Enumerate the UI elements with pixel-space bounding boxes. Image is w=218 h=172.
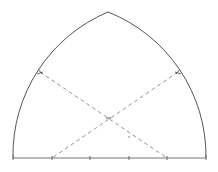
right-arc: [108, 12, 206, 158]
small-dot: [128, 136, 130, 138]
arc-intersection-marks: [37, 69, 181, 74]
left-arc: [13, 12, 108, 158]
construction-line-right: [52, 72, 178, 158]
arch-diagram: [0, 0, 218, 172]
construction-line-left: [40, 72, 167, 158]
